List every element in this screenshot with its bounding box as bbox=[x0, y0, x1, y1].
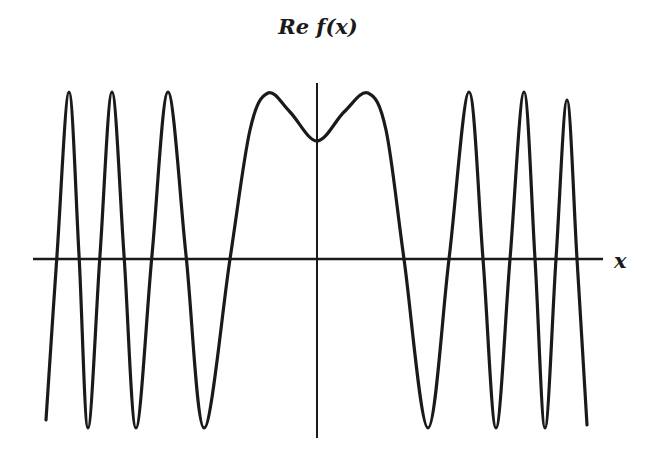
x-axis-label: x bbox=[614, 248, 627, 273]
plot-area bbox=[0, 0, 661, 458]
